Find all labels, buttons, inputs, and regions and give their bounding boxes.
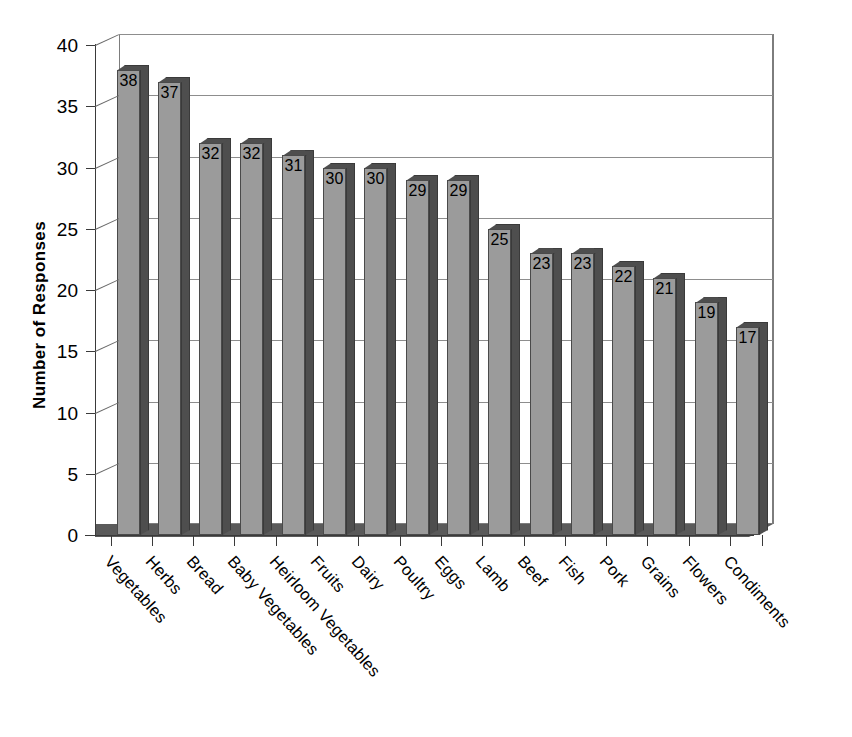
bar-value-label: 32 <box>240 146 263 162</box>
x-axis-tick <box>111 535 112 546</box>
y-axis-depth-connector <box>95 279 119 291</box>
gridline <box>119 95 773 96</box>
bar-front-face <box>530 253 553 535</box>
x-axis-tick <box>730 535 731 546</box>
bar: 25 <box>488 224 520 535</box>
x-axis-tick <box>400 535 401 546</box>
bar: 21 <box>653 273 685 535</box>
gridline <box>119 34 773 35</box>
x-axis-tick <box>193 535 194 546</box>
bar-side-face <box>305 150 314 535</box>
x-axis-tick <box>689 535 690 546</box>
bar-front-face <box>406 180 429 535</box>
bar-value-label: 22 <box>612 269 635 285</box>
bar-value-label: 30 <box>323 171 346 187</box>
bar-side-face <box>346 163 355 536</box>
bar-front-face <box>695 302 718 535</box>
x-axis-tick <box>234 535 235 546</box>
x-axis-category-label: Bread <box>183 552 227 598</box>
y-axis-depth-connector <box>95 34 119 46</box>
bar-front-face <box>488 229 511 535</box>
bar: 31 <box>282 150 314 535</box>
bar-side-face <box>676 273 685 535</box>
bar-side-face <box>511 224 520 535</box>
bar-front-face <box>282 155 305 535</box>
x-axis-line <box>85 535 754 536</box>
bar-value-label: 32 <box>199 146 222 162</box>
x-axis-category-label: Grains <box>637 552 684 602</box>
x-axis-category-label: Eggs <box>431 552 471 593</box>
x-axis-tick <box>647 535 648 546</box>
bar-chart: Number of Responses 0510152025303540 383… <box>0 0 852 737</box>
bar-front-face <box>117 70 140 536</box>
y-axis-tick <box>86 168 95 169</box>
bar-front-face <box>240 143 263 535</box>
bar-side-face <box>553 248 562 535</box>
bar: 17 <box>736 322 768 535</box>
bar-value-label: 21 <box>653 281 676 297</box>
y-axis-tick <box>86 535 95 536</box>
x-axis-category-label: Beef <box>514 552 551 591</box>
bar: 32 <box>240 138 272 535</box>
bar-front-face <box>736 327 759 535</box>
y-axis-depth-connector <box>95 463 119 475</box>
bar: 23 <box>530 248 562 535</box>
bar: 22 <box>612 261 644 536</box>
y-axis-tick <box>86 45 95 46</box>
bar-side-face <box>470 175 479 535</box>
x-axis-category-label: Pork <box>596 552 633 591</box>
bar-side-face <box>759 322 768 535</box>
bar-front-face <box>653 278 676 535</box>
y-axis-tick <box>86 474 95 475</box>
x-axis-tick <box>524 535 525 546</box>
back-wall-right-edge <box>773 34 774 524</box>
bar: 29 <box>406 175 438 535</box>
x-axis-tick <box>152 535 153 546</box>
y-axis-depth-connector <box>95 157 119 169</box>
x-axis-tick <box>317 535 318 546</box>
x-axis-category-label: Fish <box>555 552 591 588</box>
y-axis-depth-connector <box>95 402 119 414</box>
bar-front-face <box>323 168 346 536</box>
bar: 23 <box>571 248 603 535</box>
bar-side-face <box>222 138 231 535</box>
bar-side-face <box>387 163 396 536</box>
x-axis-tick <box>276 535 277 546</box>
y-axis-depth-connector <box>95 340 119 352</box>
bar: 32 <box>199 138 231 535</box>
bar-value-label: 37 <box>158 85 181 101</box>
bar-side-face <box>263 138 272 535</box>
bar-value-label: 23 <box>571 256 594 272</box>
y-axis-depth-connector <box>95 218 119 230</box>
x-axis-tick <box>565 535 566 546</box>
y-axis-tick <box>86 106 95 107</box>
bar-front-face <box>158 82 181 535</box>
bar-value-label: 38 <box>117 73 140 89</box>
bar: 29 <box>447 175 479 535</box>
bar-side-face <box>594 248 603 535</box>
x-axis-category-label: Dairy <box>348 552 389 594</box>
x-axis-tick <box>606 535 607 546</box>
bar: 30 <box>364 163 396 536</box>
y-axis-tick <box>86 351 95 352</box>
y-axis-tick <box>86 229 95 230</box>
bar: 38 <box>117 65 149 536</box>
x-axis-tick <box>482 535 483 546</box>
bar-front-face <box>447 180 470 535</box>
bar-front-face <box>612 266 635 536</box>
bar-side-face <box>635 261 644 536</box>
x-axis-tick <box>358 535 359 546</box>
y-axis-tick <box>86 290 95 291</box>
bar-value-label: 29 <box>406 183 429 199</box>
bar: 37 <box>158 77 190 535</box>
bar-side-face <box>181 77 190 535</box>
x-axis-category-label: Lamb <box>472 552 514 596</box>
x-axis-category-label: Condiments <box>720 552 794 632</box>
bar-side-face <box>718 297 727 535</box>
x-axis-tick-end <box>762 535 763 546</box>
y-axis-tick <box>86 413 95 414</box>
bar-value-label: 19 <box>695 305 718 321</box>
bar-front-face <box>571 253 594 535</box>
plot-area: 38373232313030292925232322211917Vegetabl… <box>0 0 852 737</box>
bar-front-face <box>364 168 387 536</box>
